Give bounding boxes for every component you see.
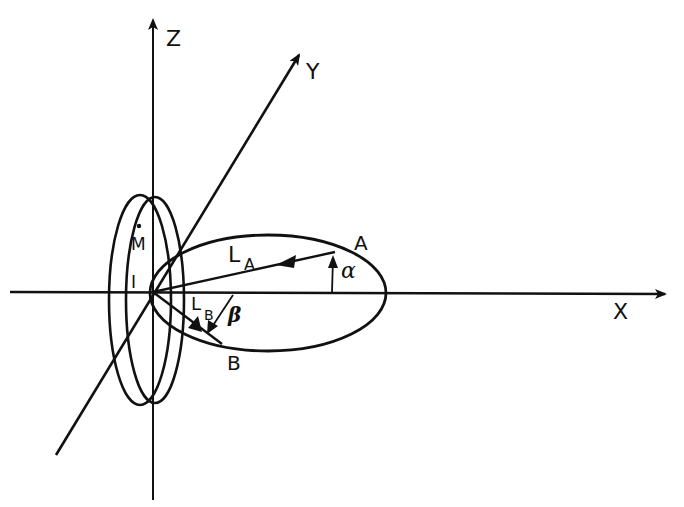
y-axis-label: Y [305,59,320,84]
vector-la-subscript: A [244,255,255,274]
alpha-label: α [341,258,356,283]
point-a-label: A [354,231,368,255]
disk-front-ellipse [126,197,184,403]
beta-label: β [227,303,241,327]
alpha-arrowhead [328,255,338,268]
vector-lb-subscript: B [204,307,214,323]
z-axis-label: Z [166,26,181,51]
point-b-label: B [227,351,241,375]
vector-lb-label: L [191,293,201,314]
inertia-label: I [131,272,136,292]
diagram-canvas: Z Y X A B L A L B α β M I [0,0,684,507]
vector-la-label: L [228,242,241,267]
mdot-dot [137,224,141,228]
vector-lb-arrowhead [188,316,202,332]
x-axis-label: X [613,299,628,324]
vector-la-arrowhead [276,255,296,268]
mdot-label: M [131,234,146,254]
